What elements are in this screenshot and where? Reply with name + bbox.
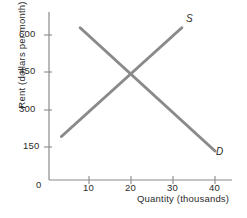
chart-figure: 0 150 300 450 600 10 20 30 40 Rent (doll… xyxy=(0,0,247,218)
supply-curve-label: S xyxy=(186,13,193,24)
x-tick-label-40: 40 xyxy=(209,182,220,193)
demand-curve-label: D xyxy=(216,146,223,157)
y-tick-label-150: 150 xyxy=(23,140,39,151)
supply-curve xyxy=(61,28,181,137)
y-axis-title-wrapper: Rent (dollars per month) xyxy=(11,0,29,130)
x-tick-label-30: 30 xyxy=(167,182,178,193)
x-axis-title: Quantity (thousands) xyxy=(137,193,229,204)
x-tick-label-20: 20 xyxy=(125,182,136,193)
y-tick-label-0: 0 xyxy=(36,179,41,190)
x-tick-label-10: 10 xyxy=(83,182,94,193)
y-axis-title: Rent (dollars per month) xyxy=(16,1,27,108)
demand-curve xyxy=(80,28,215,151)
